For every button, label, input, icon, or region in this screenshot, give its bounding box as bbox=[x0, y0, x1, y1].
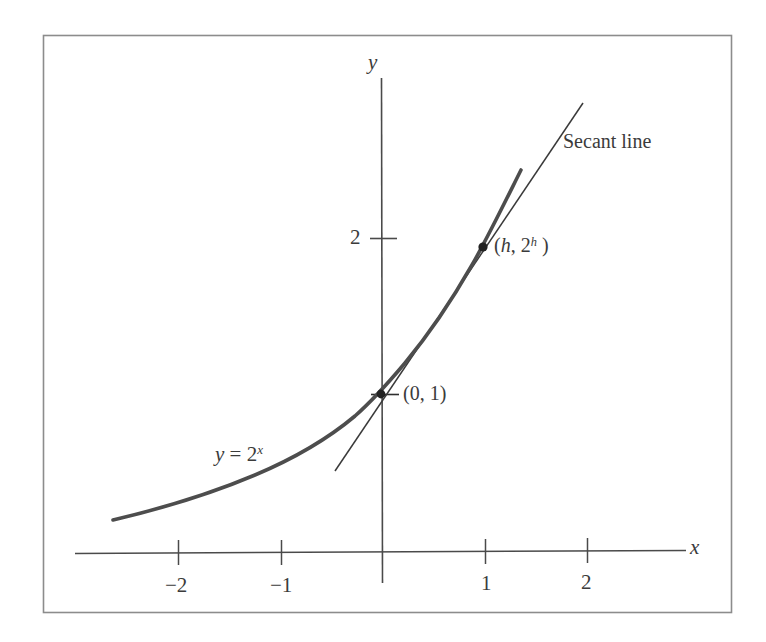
curve-equation-exponent: x bbox=[257, 442, 263, 457]
y-axis-label: y bbox=[368, 52, 377, 73]
point-h-close: ) bbox=[537, 234, 549, 256]
exponential-curve bbox=[113, 170, 521, 520]
point-h-var: h bbox=[501, 234, 511, 256]
y-tick-label-2: 2 bbox=[350, 227, 361, 248]
curve-equation-y: y bbox=[215, 442, 224, 466]
x-tick-label-1: 1 bbox=[481, 573, 492, 594]
figure-canvas bbox=[0, 0, 766, 642]
x-axis-line bbox=[75, 551, 686, 554]
exponential-secant-line-figure: y x 2 −2 −1 1 2 Secant line (h, 2h ) (0,… bbox=[0, 0, 766, 642]
x-tick-label-minus2: −2 bbox=[165, 575, 187, 596]
secant-line-label: Secant line bbox=[563, 131, 651, 151]
data-point-origin bbox=[377, 390, 386, 399]
point-h-open: ( bbox=[494, 234, 501, 256]
point-origin-label: (0, 1) bbox=[403, 383, 446, 403]
x-tick-label-minus1: −1 bbox=[270, 575, 292, 596]
point-h-mid: , 2 bbox=[511, 234, 531, 256]
curve-equation-eq: = 2 bbox=[224, 442, 257, 466]
y-axis-line bbox=[382, 78, 383, 583]
data-point-h bbox=[478, 242, 487, 251]
point-h-label: (h, 2h ) bbox=[494, 235, 549, 255]
curve-equation-label: y = 2x bbox=[215, 443, 263, 465]
x-tick-label-2: 2 bbox=[581, 572, 592, 593]
x-axis-label: x bbox=[690, 537, 699, 558]
figure-frame bbox=[44, 36, 732, 613]
